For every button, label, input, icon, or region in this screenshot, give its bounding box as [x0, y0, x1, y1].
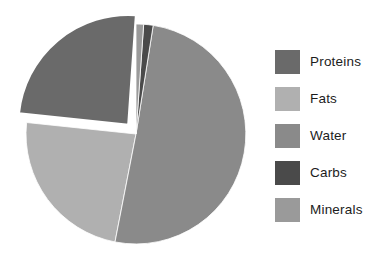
legend-label-water: Water — [310, 129, 347, 143]
pie-slice-proteins[interactable] — [19, 15, 136, 125]
pie-chart-area — [0, 0, 262, 274]
legend-item-fats[interactable]: Fats — [275, 87, 367, 111]
legend-item-water[interactable]: Water — [275, 124, 367, 148]
legend-label-proteins: Proteins — [310, 55, 361, 69]
chart-canvas: Proteins Fats Water Carbs Minerals — [0, 0, 367, 274]
chart-legend: Proteins Fats Water Carbs Minerals — [275, 50, 367, 235]
legend-label-carbs: Carbs — [310, 166, 347, 180]
legend-swatch-fats — [275, 87, 300, 111]
legend-label-minerals: Minerals — [310, 203, 363, 217]
legend-swatch-water — [275, 124, 300, 148]
legend-swatch-minerals — [275, 198, 300, 222]
legend-swatch-carbs — [275, 161, 300, 185]
legend-item-proteins[interactable]: Proteins — [275, 50, 367, 74]
pie-slice-group — [19, 15, 246, 244]
legend-swatch-proteins — [275, 50, 300, 74]
legend-label-fats: Fats — [310, 92, 337, 106]
pie-chart-svg — [0, 0, 262, 274]
legend-item-minerals[interactable]: Minerals — [275, 198, 367, 222]
legend-item-carbs[interactable]: Carbs — [275, 161, 367, 185]
